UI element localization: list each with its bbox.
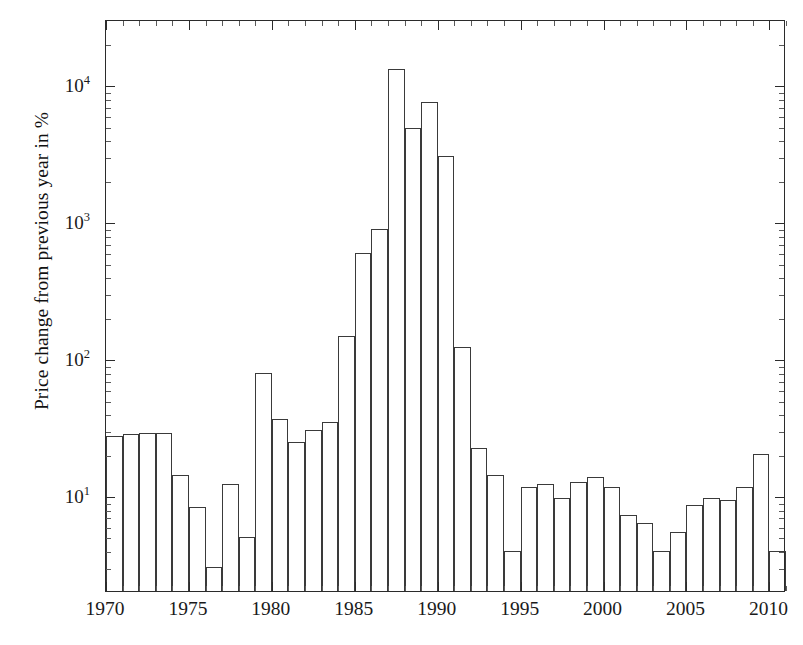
x-tick-minor	[239, 21, 240, 26]
x-tick-minor	[637, 21, 638, 26]
y-tick-minor	[779, 245, 784, 246]
y-tick-minor	[106, 117, 111, 118]
x-tick-minor	[206, 586, 207, 591]
x-tick-minor	[288, 21, 289, 26]
bar	[123, 434, 140, 591]
x-tick-minor	[554, 21, 555, 26]
x-tick-minor	[288, 586, 289, 591]
y-tick-minor	[106, 367, 111, 368]
y-tick-minor	[106, 518, 111, 519]
y-tick-minor	[106, 456, 111, 457]
y-tick-minor	[106, 45, 111, 46]
bar	[686, 505, 703, 591]
x-tick-minor	[471, 21, 472, 26]
x-tick-minor	[139, 586, 140, 591]
y-tick-minor	[779, 45, 784, 46]
x-tick-minor	[504, 586, 505, 591]
x-tick-minor	[156, 21, 157, 26]
y-tick-minor	[106, 528, 111, 529]
x-tick-minor	[206, 21, 207, 26]
y-tick-minor	[779, 295, 784, 296]
y-axis-label-10: 101	[65, 485, 90, 508]
y-tick-minor	[779, 504, 784, 505]
x-tick-major	[106, 582, 107, 591]
bar	[438, 156, 455, 591]
x-axis-label-2005: 2005	[666, 598, 705, 620]
bar	[637, 523, 654, 591]
x-tick-minor	[637, 586, 638, 591]
x-tick-major	[686, 21, 687, 30]
bar	[189, 507, 206, 591]
plot-area	[105, 20, 785, 592]
y-tick-minor	[106, 254, 111, 255]
y-tick-minor	[779, 391, 784, 392]
x-tick-minor	[720, 21, 721, 26]
y-tick-minor	[779, 402, 784, 403]
y-tick-major	[106, 86, 115, 87]
x-tick-minor	[222, 21, 223, 26]
y-tick-minor	[779, 141, 784, 142]
y-tick-minor	[779, 230, 784, 231]
y-tick-minor	[779, 538, 784, 539]
bar	[322, 422, 339, 591]
x-tick-minor	[139, 21, 140, 26]
y-axis-label-100: 102	[65, 348, 90, 371]
bar	[206, 567, 223, 591]
x-tick-minor	[487, 586, 488, 591]
y-tick-minor	[106, 100, 111, 101]
bar	[338, 336, 355, 591]
bar	[703, 498, 720, 591]
x-tick-minor	[653, 586, 654, 591]
x-tick-major	[272, 21, 273, 30]
bar	[222, 484, 239, 591]
x-tick-minor	[620, 586, 621, 591]
x-tick-minor	[537, 586, 538, 591]
bar	[272, 419, 289, 591]
x-tick-major	[769, 582, 770, 591]
y-tick-minor	[106, 569, 111, 570]
x-tick-minor	[653, 21, 654, 26]
bar	[769, 551, 786, 591]
y-tick-minor	[106, 382, 111, 383]
y-tick-minor	[106, 432, 111, 433]
y-tick-minor	[106, 319, 111, 320]
y-tick-minor	[106, 538, 111, 539]
x-tick-minor	[703, 586, 704, 591]
y-tick-major	[106, 360, 115, 361]
y-tick-minor	[779, 182, 784, 183]
x-tick-minor	[570, 21, 571, 26]
x-tick-major	[106, 21, 107, 30]
x-tick-minor	[720, 586, 721, 591]
x-tick-minor	[322, 21, 323, 26]
bar	[471, 448, 488, 591]
y-tick-minor	[779, 319, 784, 320]
y-tick-minor	[106, 245, 111, 246]
bar	[388, 69, 405, 591]
x-tick-minor	[305, 586, 306, 591]
y-tick-major	[775, 360, 784, 361]
y-tick-major	[106, 497, 115, 498]
x-tick-minor	[471, 586, 472, 591]
x-axis-label-1975: 1975	[168, 598, 207, 620]
bar	[670, 532, 687, 591]
bar	[554, 498, 571, 591]
x-tick-major	[686, 582, 687, 591]
x-tick-minor	[388, 21, 389, 26]
y-tick-minor	[779, 415, 784, 416]
bar	[587, 477, 604, 591]
x-tick-minor	[587, 586, 588, 591]
y-tick-minor	[779, 382, 784, 383]
bar	[156, 433, 173, 591]
y-tick-minor	[779, 569, 784, 570]
bar	[172, 475, 189, 591]
x-tick-minor	[405, 586, 406, 591]
x-axis-label-1990: 1990	[417, 598, 456, 620]
x-tick-minor	[487, 21, 488, 26]
bar	[604, 487, 621, 591]
x-tick-major	[272, 582, 273, 591]
x-tick-minor	[786, 586, 787, 591]
bar	[620, 515, 637, 591]
y-tick-minor	[779, 432, 784, 433]
x-tick-minor	[123, 586, 124, 591]
x-tick-minor	[172, 586, 173, 591]
